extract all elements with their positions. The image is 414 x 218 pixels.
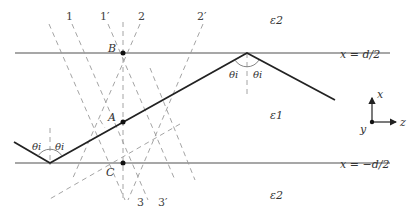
wavefront-lines	[48, 22, 247, 200]
waveguide-ray-diagram: B A C 1 1′ 2 2′ 3 3′ θi θi θi θi ε2 ε1 ε…	[0, 0, 414, 218]
label-2-prime: 2′	[197, 10, 207, 23]
axis-z-label: z	[399, 116, 406, 129]
label-C: C	[106, 166, 115, 179]
label-A: A	[107, 111, 116, 124]
label-1: 1	[66, 10, 73, 23]
top-boundary-label: x = d/2	[340, 48, 380, 61]
label-B: B	[107, 42, 116, 55]
point-C	[121, 161, 126, 166]
theta-left-2: θi	[55, 141, 64, 152]
label-3-prime: 3′	[158, 196, 168, 209]
bottom-boundary-label: x = −d/2	[340, 158, 389, 171]
point-A	[121, 120, 126, 125]
medium-upper: ε2	[270, 14, 283, 27]
point-B	[121, 51, 126, 56]
theta-right-2: θi	[253, 69, 262, 80]
coordinate-axes: x y z	[359, 88, 406, 136]
label-3: 3	[137, 196, 144, 209]
medium-core: ε1	[270, 109, 283, 122]
axis-y-label: y	[359, 123, 367, 136]
theta-left-1: θi	[32, 141, 41, 152]
label-1-prime: 1′	[100, 10, 110, 23]
axis-x-label: x	[377, 88, 384, 101]
label-2: 2	[138, 10, 145, 23]
theta-right-1: θi	[229, 69, 238, 80]
medium-lower: ε2	[270, 189, 283, 202]
